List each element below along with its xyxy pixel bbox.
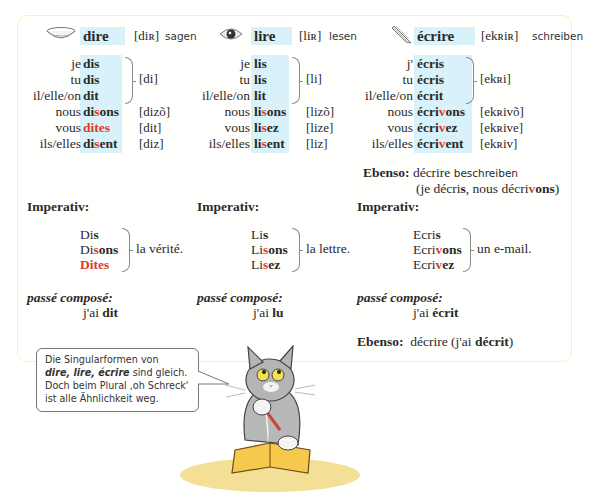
ebenso-decrire: Ebenso: décrire beschreiben — [363, 165, 518, 181]
verb-form-lire: lisons — [254, 104, 286, 120]
imperativ-form-ecrire: Ecris — [413, 227, 441, 243]
verb-form-lire: lisez — [254, 120, 279, 136]
verb-form-dire: dit — [83, 88, 99, 104]
pronoun-dire: vous — [0, 120, 81, 136]
brace-singular-dire — [125, 57, 133, 104]
pronoun-lire: il/elle/on — [160, 88, 250, 104]
phonetic-plural-ecrire: [ekʀivõ] — [480, 104, 524, 120]
imperativ-object-lire: la lettre. — [306, 241, 350, 257]
pc-form-lire: j'ai lu — [253, 305, 284, 321]
verb-form-dire: dis — [83, 72, 100, 88]
imperativ-label-lire: Imperativ: — [197, 199, 259, 215]
verb-form-ecrire: écrit — [417, 88, 443, 104]
pronoun-lire: je — [160, 56, 250, 72]
verb-form-ecrire: écris — [417, 72, 444, 88]
phonetic-dire: [diʀ] — [134, 28, 159, 44]
pronoun-dire: nous — [0, 104, 81, 120]
pc-label-ecrire: passé composé: — [357, 290, 443, 306]
verb-form-dire: disent — [83, 136, 118, 152]
phonetic-ecrire: [ekʀiʀ] — [481, 28, 518, 44]
verb-form-ecrire: écrivons — [417, 104, 465, 120]
pronoun-lire: vous — [160, 120, 250, 136]
translation-lire: lesen — [329, 30, 357, 42]
brace-singular-lire — [292, 57, 300, 104]
verb-title-lire: lire — [251, 27, 292, 45]
imperativ-form-ecrire: Ecrivez — [413, 257, 454, 273]
brace-singular-ecrire — [466, 57, 474, 104]
imperativ-label-dire: Imperativ: — [27, 199, 89, 215]
imperativ-form-lire: Lis — [251, 227, 268, 243]
phonetic-lire: [liʀ] — [299, 28, 321, 44]
phonetic-plural-ecrire: [ekʀive] — [480, 120, 523, 136]
pronoun-dire: il/elle/on — [0, 88, 81, 104]
singular-phon-lire: [li] — [306, 71, 322, 87]
verb-form-dire: disons — [83, 104, 119, 120]
translation-ecrire: schreiben — [532, 30, 583, 42]
pc-form-ecrire: j'ai écrit — [413, 305, 459, 321]
pc-label-dire: passé composé: — [27, 290, 113, 306]
brace-imperativ-ecrire — [463, 228, 471, 272]
ebenso-decrire-pc: Ebenso: décrire (j'ai décrit) — [357, 334, 513, 350]
pronoun-lire: ils/elles — [160, 136, 250, 152]
verb-form-ecrire: écris — [417, 56, 444, 72]
imperativ-form-lire: Lisez — [251, 257, 280, 273]
imperativ-form-dire: Dis — [80, 227, 99, 243]
cat-illustration — [170, 345, 370, 495]
pronoun-ecrire: vous — [323, 120, 413, 136]
ebenso-decrire-forms: (je décris, nous décrivons) — [416, 181, 559, 197]
pc-form-dire: j'ai dit — [83, 305, 118, 321]
verb-form-lire: lit — [254, 88, 266, 104]
pc-label-lire: passé composé: — [197, 290, 283, 306]
pronoun-dire: tu — [0, 72, 81, 88]
brace-imperativ-dire — [122, 228, 130, 272]
imperativ-form-dire: Dites — [80, 257, 109, 273]
pronoun-ecrire: tu — [323, 72, 413, 88]
verb-form-ecrire: écrivent — [417, 136, 463, 152]
pronoun-dire: je — [0, 56, 81, 72]
verb-form-lire: lis — [254, 72, 267, 88]
verb-form-lire: lis — [254, 56, 267, 72]
phonetic-plural-ecrire: [ekʀiv] — [480, 136, 517, 152]
pronoun-ecrire: ils/elles — [323, 136, 413, 152]
translation-dire: sagen — [165, 30, 197, 42]
singular-phon-dire: [di] — [139, 71, 158, 87]
imperativ-object-ecrire: un e-mail. — [477, 241, 532, 257]
pronoun-ecrire: nous — [323, 104, 413, 120]
pronoun-dire: ils/elles — [0, 136, 81, 152]
imperativ-form-ecrire: Ecrivons — [413, 242, 462, 258]
verb-form-dire: dites — [83, 120, 110, 136]
brace-imperativ-lire — [292, 228, 300, 272]
verb-title-ecrire: écrire — [414, 27, 475, 45]
pronoun-ecrire: j' — [323, 56, 413, 72]
verb-title-dire: dire — [80, 27, 125, 45]
verb-form-lire: lisent — [254, 136, 285, 152]
verb-form-dire: dis — [83, 56, 100, 72]
pencil-icon — [391, 23, 413, 45]
pronoun-ecrire: il/elle/on — [323, 88, 413, 104]
imperativ-object-dire: la vérité. — [136, 241, 183, 257]
pronoun-lire: tu — [160, 72, 250, 88]
phonetic-plural-dire: [dit] — [139, 120, 161, 136]
imperativ-form-lire: Lisons — [251, 242, 288, 258]
imperativ-form-dire: Disons — [80, 242, 118, 258]
verb-form-ecrire: écrivez — [417, 120, 457, 136]
singular-phon-ecrire: [ekʀi] — [480, 71, 511, 87]
imperativ-label-ecrire: Imperativ: — [357, 199, 419, 215]
pronoun-lire: nous — [160, 104, 250, 120]
mouth-icon — [45, 25, 77, 43]
eye-icon — [218, 25, 244, 43]
